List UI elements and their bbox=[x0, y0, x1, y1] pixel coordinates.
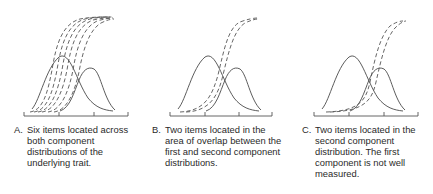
panel-b-item-curves bbox=[180, 18, 258, 112]
panel-b-caption: B. Two items located in the area of over… bbox=[152, 124, 292, 184]
panel-c-caption-text: Two items located in the second componen… bbox=[315, 124, 416, 179]
caption-line: distributions. bbox=[165, 157, 281, 168]
caption-line: second component bbox=[315, 135, 416, 146]
panel-c-caption: C. Two items located in the second compo… bbox=[302, 124, 433, 194]
panel-b-axis bbox=[170, 112, 272, 116]
caption-line: Two items located in the bbox=[315, 124, 416, 135]
panel-a-label: A. bbox=[14, 124, 23, 135]
caption-line: underlying trait. bbox=[27, 157, 128, 168]
caption-line: both component bbox=[27, 135, 128, 146]
caption-line: area of overlap between the bbox=[165, 135, 281, 146]
caption-line: component is not well bbox=[315, 157, 416, 168]
panel-c-label: C. bbox=[302, 124, 311, 135]
caption-line: distributions of the bbox=[27, 146, 128, 157]
panel-c-axis bbox=[314, 112, 418, 116]
panel-c-item-curves bbox=[326, 21, 406, 112]
panel-c-component-distributions bbox=[322, 56, 405, 111]
panel-b-plot bbox=[170, 18, 272, 116]
panel-b-component-distributions bbox=[178, 56, 261, 111]
caption-line: Two items located in the bbox=[165, 124, 281, 135]
panel-a-axis bbox=[24, 112, 128, 116]
caption-line: Six items located across bbox=[27, 124, 128, 135]
panel-a-caption: A. Six items located across both compone… bbox=[14, 124, 144, 184]
panel-b-label: B. bbox=[152, 124, 161, 135]
panel-a-plot bbox=[24, 17, 128, 116]
panel-a-caption-text: Six items located across both component … bbox=[27, 124, 128, 168]
caption-line: distribution. The first bbox=[315, 146, 416, 157]
caption-line: first and second component bbox=[165, 146, 281, 157]
panel-a-component-distributions bbox=[32, 56, 115, 111]
caption-line: measured. bbox=[315, 168, 416, 179]
panel-b-caption-text: Two items located in the area of overlap… bbox=[165, 124, 281, 168]
panel-c-plot bbox=[314, 21, 418, 116]
